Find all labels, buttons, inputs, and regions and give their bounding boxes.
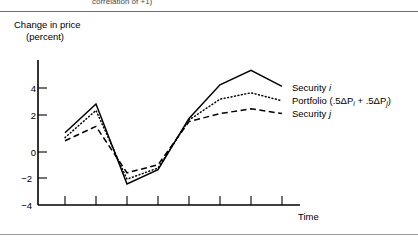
legend-var-i: i [329, 82, 331, 93]
figure-panel: correlation of +1) Change in price (perc… [0, 0, 418, 245]
x-axis-title: Time [298, 211, 319, 222]
legend-label-portfolio: Portfolio (.5ΔPi + .5ΔPj) [292, 95, 391, 109]
legend-text-security-j: Security [292, 108, 329, 119]
y-tick-label-2: 2 [20, 110, 36, 121]
chart-axes [38, 60, 300, 205]
legend-text-portfolio-suffix: ) [388, 95, 391, 106]
y-tick-label-0: 0 [20, 147, 36, 158]
legend-var-j: j [329, 108, 331, 119]
series-line-security-i [65, 70, 282, 184]
x-axis-ticks [65, 196, 282, 205]
y-tick-label-neg2: −2 [16, 173, 32, 184]
series-line-security-j [65, 109, 282, 173]
legend-text-security-i: Security [292, 82, 329, 93]
series-line-portfolio [65, 93, 282, 179]
legend-text-portfolio-mid: + .5ΔP [355, 95, 386, 106]
divider-bottom [0, 234, 418, 235]
y-tick-label-neg4: −4 [16, 200, 32, 211]
line-chart-canvas [0, 0, 418, 245]
y-tick-label-4: 4 [20, 83, 36, 94]
legend-label-security-i: Security i [292, 82, 331, 93]
legend-label-security-j: Security j [292, 108, 331, 119]
legend-text-portfolio-prefix: Portfolio (.5ΔP [292, 95, 353, 106]
